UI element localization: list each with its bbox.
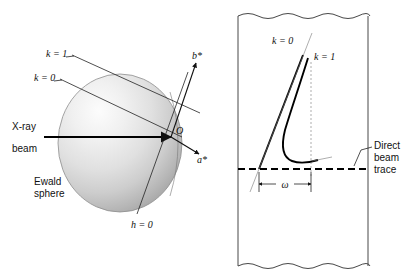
label-h-equals-zero: h = 0 <box>131 219 153 230</box>
left-panel-group: k = 1 k = 0 h = 0 O b* a* X-ray beam Ewa… <box>12 48 207 230</box>
ewald-sphere-shape <box>58 74 182 212</box>
film-top-torn-edge <box>238 14 370 19</box>
k1-trace-tail <box>312 157 332 161</box>
film-bottom-torn-edge <box>238 264 370 269</box>
label-ewald-sphere-line2: sphere <box>34 188 65 199</box>
label-xray-beam-line1: X-ray <box>12 121 36 132</box>
label-right-k-equals-one: k = 1 <box>314 51 335 62</box>
b-star-axis-arrow <box>171 63 196 137</box>
k0-leader <box>54 80 62 81</box>
diagram-canvas: k = 1 k = 0 h = 0 O b* a* X-ray beam Ewa… <box>0 0 415 280</box>
label-direct-beam-line2: beam <box>374 152 399 163</box>
label-k-equals-zero: k = 0 <box>34 72 55 83</box>
k1-trace-curve <box>283 58 318 163</box>
k0-trace-extension <box>250 33 312 192</box>
label-direct-beam-line3: trace <box>374 164 397 175</box>
k1-leader <box>66 56 74 57</box>
label-b-star: b* <box>192 50 202 61</box>
direct-beam-leader <box>354 147 372 166</box>
label-ewald-sphere-line1: Ewald <box>34 176 61 187</box>
label-omega: ω <box>281 179 288 190</box>
label-a-star: a* <box>197 154 207 165</box>
label-origin-o: O <box>176 125 183 136</box>
right-panel-group: k = 0 k = 1 ω Direct beam trace <box>238 14 400 269</box>
label-direct-beam-line1: Direct <box>374 140 400 151</box>
figure-root: k = 1 k = 0 h = 0 O b* a* X-ray beam Ewa… <box>0 0 415 280</box>
label-k-equals-one: k = 1 <box>46 48 67 59</box>
label-right-k-equals-zero: k = 0 <box>272 35 293 46</box>
label-xray-beam-line2: beam <box>12 143 37 154</box>
